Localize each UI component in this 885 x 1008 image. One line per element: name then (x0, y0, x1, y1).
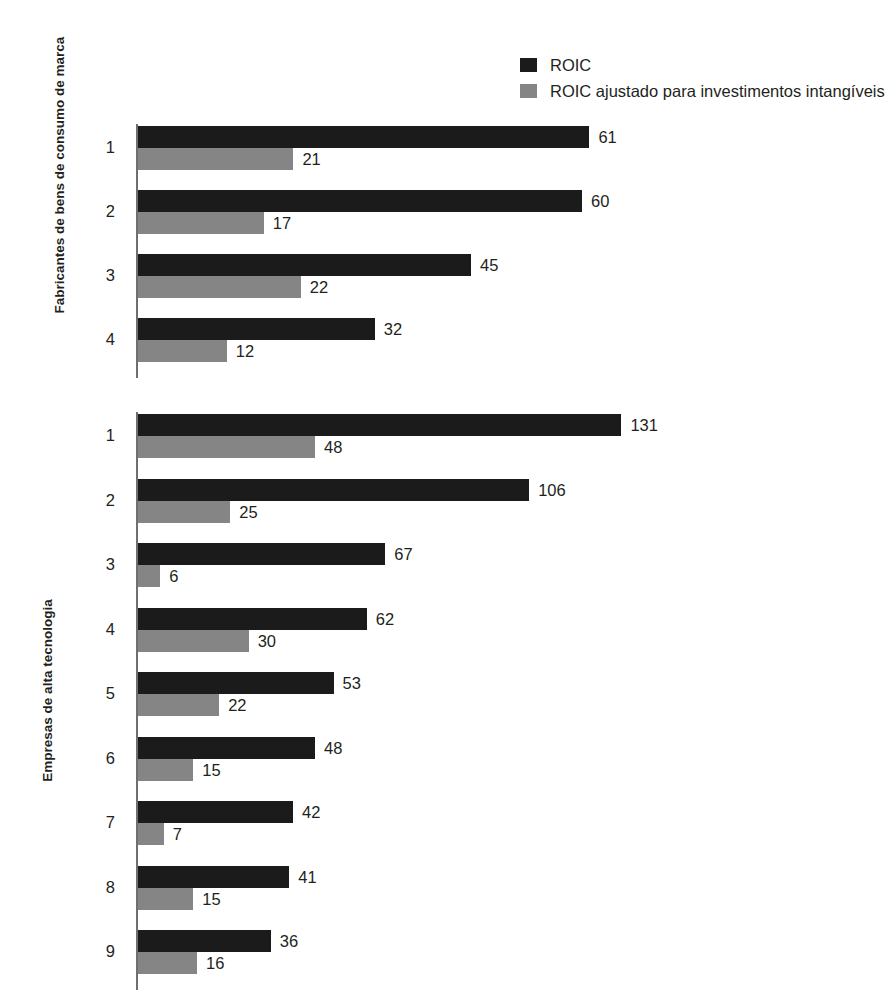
chart-tech-bar-roic: 67 (138, 543, 385, 565)
bar-value-roic: 36 (271, 933, 298, 950)
chart-tech-bar-roic: 106 (138, 479, 529, 501)
chart-brand-bar-roic: 61 (138, 126, 589, 148)
bar-segment-roic (138, 543, 385, 565)
chart-tech-row-bars: 6230 (138, 608, 367, 652)
bar-value-roic-adjusted: 22 (301, 279, 328, 296)
chart-tech-bar-roic-adjusted: 7 (138, 823, 293, 845)
chart-brand-row-label: 2 (55, 202, 115, 221)
chart-tech-bar-roic-adjusted: 15 (138, 759, 315, 781)
chart-tech-row-bars: 3616 (138, 930, 271, 974)
chart-tech-row-bars: 13148 (138, 414, 621, 458)
bar-segment-roic (138, 801, 293, 823)
chart-tech-bar-roic-adjusted: 25 (138, 501, 529, 523)
bar-segment-roic-adjusted (138, 501, 230, 523)
bar-value-roic: 60 (582, 193, 609, 210)
chart-tech-axis-title: Empresas de alta tecnologia (39, 576, 56, 806)
legend-item-roic-adjusted: ROIC ajustado para investimentos intangí… (520, 78, 885, 104)
bar-segment-roic-adjusted (138, 148, 293, 170)
bar-value-roic-adjusted: 6 (160, 568, 178, 585)
chart-tech-row-label: 6 (55, 749, 115, 768)
chart-brand-bar-roic-adjusted: 22 (138, 276, 471, 298)
chart-brand-bar-roic: 45 (138, 254, 471, 276)
bar-segment-roic (138, 930, 271, 952)
bar-segment-roic (138, 479, 529, 501)
chart-tech-row-bars: 676 (138, 543, 385, 587)
bar-value-roic: 41 (289, 868, 316, 885)
chart-brand-bar-roic-adjusted: 17 (138, 212, 582, 234)
chart-tech-row-bars: 4815 (138, 737, 315, 781)
bar-value-roic: 61 (589, 129, 616, 146)
bar-segment-roic (138, 126, 589, 148)
chart-legend: ROIC ROIC ajustado para investimentos in… (520, 52, 885, 104)
bar-segment-roic (138, 608, 367, 630)
bar-segment-roic (138, 414, 621, 436)
bar-value-roic: 67 (385, 546, 412, 563)
chart-brand-bar-roic: 60 (138, 190, 582, 212)
bar-value-roic-adjusted: 30 (249, 632, 276, 649)
chart-tech-bar-roic: 42 (138, 801, 293, 823)
legend-label-roic: ROIC (550, 57, 591, 74)
bar-value-roic-adjusted: 21 (293, 151, 320, 168)
chart-tech-bar-roic: 41 (138, 866, 289, 888)
chart-high-tech-companies: Empresas de alta tecnologia 113148210625… (0, 412, 885, 990)
bar-value-roic: 62 (367, 610, 394, 627)
bar-value-roic-adjusted: 25 (230, 503, 257, 520)
bar-value-roic-adjusted: 22 (219, 697, 246, 714)
bar-segment-roic-adjusted (138, 212, 264, 234)
bar-value-roic: 32 (375, 321, 402, 338)
bar-value-roic: 48 (315, 739, 342, 756)
bar-value-roic-adjusted: 16 (197, 955, 224, 972)
chart-tech-bar-roic-adjusted: 48 (138, 436, 621, 458)
legend-swatch-roic-icon (520, 58, 537, 72)
bar-value-roic-adjusted: 7 (164, 826, 182, 843)
bar-value-roic-adjusted: 15 (193, 890, 220, 907)
bar-segment-roic-adjusted (138, 276, 301, 298)
bar-segment-roic-adjusted (138, 694, 219, 716)
chart-brand-bar-roic: 32 (138, 318, 375, 340)
chart-tech-row-label: 3 (55, 555, 115, 574)
chart-brand-bar-roic-adjusted: 21 (138, 148, 589, 170)
bar-segment-roic (138, 318, 375, 340)
chart-tech-bar-roic: 48 (138, 737, 315, 759)
bar-value-roic: 131 (621, 417, 658, 434)
chart-tech-row-bars: 10625 (138, 479, 529, 523)
chart-tech-row-label: 5 (55, 684, 115, 703)
chart-tech-bar-roic-adjusted: 22 (138, 694, 334, 716)
bar-segment-roic (138, 190, 582, 212)
chart-brand-consumer-goods: Fabricantes de bens de consumo de marca … (0, 124, 885, 378)
chart-tech-row-bars: 427 (138, 801, 293, 845)
bar-segment-roic-adjusted (138, 952, 197, 974)
chart-tech-bar-roic-adjusted: 6 (138, 565, 385, 587)
chart-brand-row-bars: 6017 (138, 190, 582, 234)
legend-swatch-roic-adjusted-icon (520, 84, 537, 98)
chart-tech-bar-roic: 53 (138, 672, 334, 694)
chart-brand-row-bars: 3212 (138, 318, 375, 362)
bar-segment-roic-adjusted (138, 436, 315, 458)
bar-segment-roic (138, 737, 315, 759)
bar-segment-roic (138, 254, 471, 276)
chart-tech-row-label: 1 (55, 426, 115, 445)
chart-tech-bar-roic-adjusted: 15 (138, 888, 289, 910)
bar-value-roic-adjusted: 12 (227, 343, 254, 360)
bar-segment-roic-adjusted (138, 888, 193, 910)
chart-brand-row-label: 1 (55, 138, 115, 157)
chart-brand-row-label: 3 (55, 266, 115, 285)
bar-segment-roic-adjusted (138, 823, 164, 845)
chart-brand-row-bars: 4522 (138, 254, 471, 298)
bar-segment-roic (138, 866, 289, 888)
chart-brand-row-bars: 6121 (138, 126, 589, 170)
bar-segment-roic-adjusted (138, 565, 160, 587)
chart-tech-row-label: 7 (55, 813, 115, 832)
bar-value-roic: 106 (529, 481, 566, 498)
bar-value-roic-adjusted: 17 (264, 215, 291, 232)
bar-value-roic: 45 (471, 257, 498, 274)
chart-tech-row-label: 2 (55, 491, 115, 510)
bar-segment-roic-adjusted (138, 340, 227, 362)
bar-segment-roic-adjusted (138, 630, 249, 652)
legend-item-roic: ROIC (520, 52, 885, 78)
chart-tech-bar-roic: 131 (138, 414, 621, 436)
bar-segment-roic-adjusted (138, 759, 193, 781)
chart-brand-row-label: 4 (55, 330, 115, 349)
chart-tech-row-bars: 5322 (138, 672, 334, 716)
chart-tech-row-bars: 4115 (138, 866, 289, 910)
